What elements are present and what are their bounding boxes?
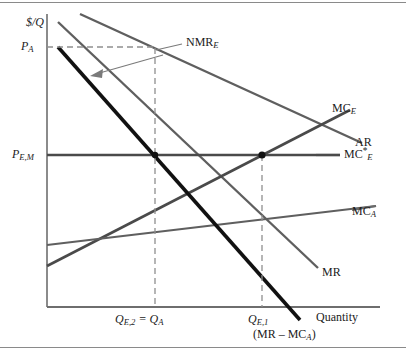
y-tick-pa: PA <box>21 40 34 54</box>
curve-label-mr-minus-mca: (MR – MCA) <box>253 328 316 342</box>
intersection-dot-right <box>258 151 265 158</box>
curve-label-mc-e: MCE <box>332 102 356 116</box>
x-axis-label: Quantity <box>316 311 358 323</box>
x-tick-qe2-qa: QE,2 = QA <box>115 313 163 327</box>
curve-ar <box>80 14 362 143</box>
curve-label-mc-e-star: MC*E <box>344 147 373 162</box>
curve-mr <box>58 22 318 268</box>
curve-label-mc-e-text: MCE <box>332 101 356 115</box>
y-axis-label: $/Q <box>26 16 44 28</box>
x-axis-label-text: Quantity <box>316 310 358 324</box>
intersection-dot-left <box>152 152 158 158</box>
y-tick-pem: PE,M <box>12 148 34 162</box>
curve-label-mc-e-star-text: MC*E <box>344 147 373 161</box>
curve-mc-e <box>47 110 350 266</box>
x-tick-qe1: QE,1 <box>248 313 268 327</box>
y-tick-pem-text: PE,M <box>12 147 34 161</box>
curve-mr-minus-mca <box>58 47 300 320</box>
curve-label-mr-text: MR <box>322 265 341 279</box>
chart-canvas <box>0 0 406 357</box>
x-tick-qe2-qa-text: QE,2 = QA <box>115 312 163 326</box>
nmr-leader-line <box>156 44 182 50</box>
curve-label-mc-a-text: MCA <box>352 204 376 218</box>
y-tick-pa-text: PA <box>21 39 34 53</box>
curve-mc-a <box>47 206 376 245</box>
curve-label-mr: MR <box>322 266 341 278</box>
x-tick-qe1-text: QE,1 <box>248 312 268 326</box>
curve-label-mc-a: MCA <box>352 205 376 219</box>
nmr-arrow-shaft <box>96 55 163 74</box>
y-axis-label-text: $/Q <box>26 15 44 29</box>
economics-diagram: $/Q Quantity PA PE,M QE,2 = QA QE,1 MCE … <box>0 0 406 357</box>
nmr-arrow-head <box>90 69 103 78</box>
annotation-nmr-e: NMRE <box>186 36 219 50</box>
annotation-nmr-e-text: NMRE <box>186 35 219 49</box>
curve-label-mr-minus-mca-text: (MR – MCA) <box>253 327 316 341</box>
